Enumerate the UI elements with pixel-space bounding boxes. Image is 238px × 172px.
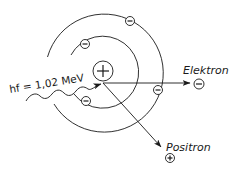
- nucleus: [93, 61, 113, 81]
- emitted-positron-icon: [166, 154, 175, 163]
- electron-icon: [81, 40, 90, 49]
- electron-icon: [154, 86, 163, 95]
- photon-energy-label: hf = 1,02 MeV: [8, 71, 85, 95]
- electron-icon: [126, 17, 135, 26]
- emitted-electron-icon: [194, 79, 204, 89]
- pair-production-diagram: hf = 1,02 MeV Elektron Positron: [0, 0, 238, 172]
- positron-label: Positron: [166, 141, 211, 154]
- electron-label: Elektron: [183, 64, 229, 77]
- electron-icon: [82, 97, 91, 106]
